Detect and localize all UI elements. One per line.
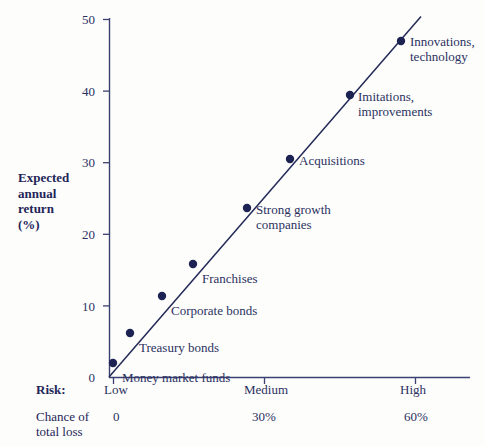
- y-tick-label-40: 40: [61, 85, 95, 98]
- data-point-imitations: [346, 91, 354, 99]
- y-axis-title: Expected annual return (%): [18, 170, 86, 232]
- point-label-treasury: Treasury bonds: [139, 340, 219, 355]
- point-label-money-market: Money market funds: [122, 370, 230, 385]
- data-point-franchises: [189, 260, 197, 268]
- chance-value-medium: 30%: [252, 409, 276, 424]
- y-tick-label-50: 50: [61, 13, 95, 26]
- y-tick-label-0: 0: [61, 371, 95, 384]
- y-tick-label-10: 10: [61, 300, 95, 313]
- data-point-money-market: [109, 359, 117, 367]
- point-label-acquisitions: Acquisitions: [299, 153, 365, 168]
- point-label-franchises: Franchises: [202, 271, 258, 286]
- risk-return-chart: Expected annual return (%) 50 40 30 20 1…: [0, 0, 484, 446]
- data-point-strong-growth: [243, 204, 251, 212]
- x-tick-label-high: High: [400, 383, 426, 396]
- trend-line: [109, 17, 421, 378]
- point-label-strong-growth: Strong growth companies: [256, 202, 331, 232]
- chance-of-total-loss-label: Chance of total loss: [36, 409, 89, 439]
- point-label-imitations: Imitations, improvements: [358, 89, 432, 119]
- data-point-treasury: [126, 329, 134, 337]
- x-axis-title-risk: Risk:: [36, 382, 66, 397]
- y-axis-title-line-2: annual: [18, 186, 86, 202]
- y-tick-label-30: 30: [61, 156, 95, 169]
- y-axis-title-line-3: return: [18, 201, 86, 217]
- point-label-corporate: Corporate bonds: [171, 303, 257, 318]
- data-point-acquisitions: [286, 155, 294, 163]
- y-axis-title-line-1: Expected: [18, 170, 86, 186]
- x-tick-label-low: Low: [104, 383, 128, 396]
- data-point-corporate: [158, 292, 166, 300]
- x-tick-label-medium: Medium: [244, 383, 288, 396]
- chance-value-high: 60%: [404, 409, 428, 424]
- y-axis-ticks: [103, 20, 109, 306]
- chance-value-low: 0: [113, 409, 120, 424]
- y-tick-label-20: 20: [61, 228, 95, 241]
- data-point-innovations: [397, 37, 405, 45]
- point-label-innovations: Innovations, technology: [410, 34, 475, 64]
